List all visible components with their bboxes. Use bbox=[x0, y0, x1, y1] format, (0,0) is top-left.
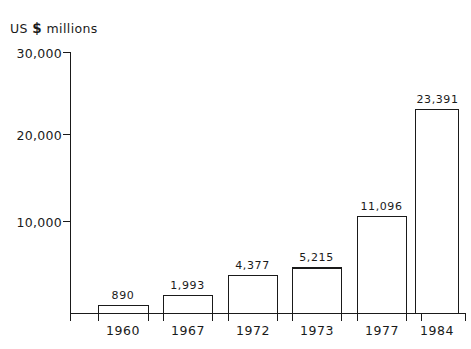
bar-1960 bbox=[99, 306, 149, 314]
bar-chart: US $ millions 30,000 20,000 10,000 bbox=[0, 0, 471, 349]
bar-1972 bbox=[229, 276, 278, 314]
xtick-label-1973: 1973 bbox=[288, 323, 346, 338]
bar-1967 bbox=[164, 296, 213, 314]
xtick-label-1960: 1960 bbox=[94, 323, 152, 338]
bar-value-1972: 4,377 bbox=[228, 259, 277, 272]
bar-value-1984: 23,391 bbox=[409, 93, 466, 106]
bar-1973 bbox=[293, 268, 342, 314]
chart-canvas bbox=[0, 0, 471, 349]
bar-value-1967: 1,993 bbox=[163, 279, 212, 292]
xtick-label-1984: 1984 bbox=[408, 323, 466, 338]
bar-value-1960: 890 bbox=[98, 289, 148, 302]
bar-1984 bbox=[416, 110, 459, 314]
bar-value-1973: 5,215 bbox=[292, 251, 341, 264]
xtick-label-1967: 1967 bbox=[159, 323, 217, 338]
bar-1977 bbox=[358, 217, 407, 314]
xtick-label-1977: 1977 bbox=[353, 323, 411, 338]
xtick-label-1972: 1972 bbox=[224, 323, 282, 338]
bar-value-1977: 11,096 bbox=[354, 200, 409, 213]
